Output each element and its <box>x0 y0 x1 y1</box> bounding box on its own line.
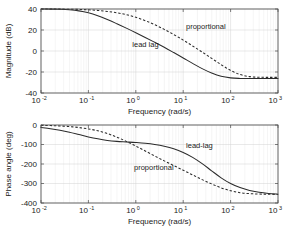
x-tick-label: 10 <box>79 206 88 215</box>
x-tick-exponent: 1 <box>184 95 187 101</box>
y-tick-label: -200 <box>21 160 38 169</box>
figure-canvas: 10-210-1100101102103-40-2002040Frequency… <box>0 0 292 236</box>
x-tick-label: 10 <box>221 96 230 105</box>
x-tick-exponent: 2 <box>232 205 235 211</box>
x-tick-exponent: 1 <box>184 205 187 211</box>
x-tick-exponent: 0 <box>137 95 140 101</box>
y-tick-label: 0 <box>33 121 38 130</box>
y-tick-label: 40 <box>28 5 37 14</box>
x-tick-label: 10 <box>126 206 135 215</box>
x-tick-exponent: -2 <box>42 95 47 101</box>
y-axis-label: Phase angle (deg) <box>4 131 13 197</box>
y-tick-label: 0 <box>33 47 38 56</box>
series-proportional <box>41 125 278 194</box>
magnitude-bode-plot: 10-210-1100101102103-40-2002040Frequency… <box>4 5 282 116</box>
x-tick-label: 10 <box>269 206 278 215</box>
y-tick-label: -300 <box>21 179 38 188</box>
x-tick-label: 10 <box>174 96 183 105</box>
x-tick-exponent: -1 <box>89 205 94 211</box>
x-tick-label: 10 <box>126 96 135 105</box>
x-tick-exponent: 2 <box>232 95 235 101</box>
annotation-lead-lag: lead-lag <box>186 141 213 150</box>
y-tick-label: -400 <box>21 199 38 208</box>
x-axis-label: Frequency (rad/s) <box>128 217 191 226</box>
x-axis-label: Frequency (rad/s) <box>128 107 191 116</box>
y-axis-label: Magnitude (dB) <box>4 23 13 78</box>
x-tick-label: 10 <box>79 96 88 105</box>
x-tick-exponent: -2 <box>42 205 47 211</box>
x-tick-exponent: 0 <box>137 205 140 211</box>
x-tick-exponent: 3 <box>279 205 282 211</box>
series-lead-lag <box>41 128 278 195</box>
x-tick-label: 10 <box>269 96 278 105</box>
x-tick-label: 10 <box>221 206 230 215</box>
annotation-lead-lag: lead lag <box>132 40 158 49</box>
series-proportional <box>41 9 278 77</box>
phase-bode-plot: 10-210-1100101102103-400-300-200-1000Fre… <box>4 121 282 226</box>
y-tick-label: -100 <box>21 140 38 149</box>
bode-plot-figure: 10-210-1100101102103-40-2002040Frequency… <box>0 0 292 236</box>
annotation-proportional: proportional <box>186 22 226 31</box>
x-tick-label: 10 <box>174 206 183 215</box>
y-tick-label: 20 <box>28 26 37 35</box>
y-tick-label: -20 <box>25 68 37 77</box>
annotation-proportional: proportional <box>134 163 174 172</box>
series-lead-lag <box>41 9 278 79</box>
x-tick-exponent: -1 <box>89 95 94 101</box>
y-tick-label: -40 <box>25 89 37 98</box>
x-tick-exponent: 3 <box>279 95 282 101</box>
